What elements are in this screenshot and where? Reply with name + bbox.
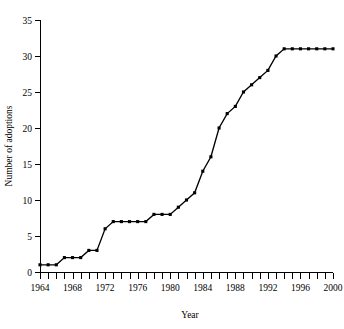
y-tick-label: 0 bbox=[27, 268, 32, 278]
adoptions-line-chart: 05101520253035 1964196819721976198019841… bbox=[0, 0, 344, 329]
data-point-marker bbox=[250, 83, 253, 86]
x-tick-label: 1992 bbox=[258, 283, 277, 293]
x-tick-label: 1968 bbox=[63, 283, 82, 293]
data-point-marker bbox=[209, 155, 212, 158]
data-point-marker bbox=[71, 256, 74, 259]
x-tick-label: 1976 bbox=[128, 283, 147, 293]
data-point-marker bbox=[128, 220, 131, 223]
data-point-marker bbox=[193, 191, 196, 194]
x-tick-label: 1980 bbox=[161, 283, 180, 293]
x-tick-label: 1964 bbox=[31, 283, 50, 293]
data-point-marker bbox=[136, 220, 139, 223]
y-tick-label: 20 bbox=[23, 124, 33, 134]
x-tick-label: 2000 bbox=[324, 283, 343, 293]
data-point-marker bbox=[299, 47, 302, 50]
x-axis-title: Year bbox=[181, 310, 199, 320]
y-tick-label: 10 bbox=[23, 196, 33, 206]
data-point-marker bbox=[266, 69, 269, 72]
x-axis-tick-labels: 1964196819721976198019841988199219962000 bbox=[31, 283, 343, 293]
y-axis-title: Number of adoptions bbox=[4, 105, 14, 186]
y-axis-tick-labels: 05101520253035 bbox=[23, 16, 33, 278]
data-point-marker bbox=[201, 170, 204, 173]
data-point-marker bbox=[95, 249, 98, 252]
y-tick-label: 30 bbox=[23, 52, 33, 62]
series-markers bbox=[38, 47, 334, 266]
data-point-marker bbox=[218, 126, 221, 129]
x-tick-label: 1988 bbox=[226, 283, 245, 293]
data-point-marker bbox=[177, 206, 180, 209]
x-tick-label: 1984 bbox=[193, 283, 212, 293]
y-tick-label: 25 bbox=[23, 88, 33, 98]
data-point-marker bbox=[291, 47, 294, 50]
y-axis-ticks bbox=[35, 21, 41, 273]
data-point-marker bbox=[38, 263, 41, 266]
chart-page: 05101520253035 1964196819721976198019841… bbox=[0, 0, 344, 329]
data-point-marker bbox=[120, 220, 123, 223]
data-point-marker bbox=[47, 263, 50, 266]
data-point-marker bbox=[169, 213, 172, 216]
data-point-marker bbox=[55, 263, 58, 266]
data-point-marker bbox=[242, 90, 245, 93]
data-point-marker bbox=[79, 256, 82, 259]
y-tick-label: 5 bbox=[27, 232, 32, 242]
data-point-marker bbox=[323, 47, 326, 50]
data-point-marker bbox=[104, 227, 107, 230]
data-point-marker bbox=[87, 249, 90, 252]
data-point-marker bbox=[331, 47, 334, 50]
data-point-marker bbox=[315, 47, 318, 50]
x-axis-ticks bbox=[41, 273, 334, 279]
x-tick-label: 1972 bbox=[96, 283, 115, 293]
data-point-marker bbox=[226, 112, 229, 115]
x-tick-label: 1996 bbox=[291, 283, 310, 293]
data-point-marker bbox=[112, 220, 115, 223]
data-point-marker bbox=[63, 256, 66, 259]
y-tick-label: 15 bbox=[23, 160, 33, 170]
data-point-marker bbox=[307, 47, 310, 50]
data-point-marker bbox=[161, 213, 164, 216]
y-tick-label: 35 bbox=[23, 16, 33, 26]
data-point-marker bbox=[274, 54, 277, 57]
series-line-number-of-adoptions bbox=[40, 49, 333, 265]
data-point-marker bbox=[258, 76, 261, 79]
data-point-marker bbox=[234, 105, 237, 108]
data-point-marker bbox=[283, 47, 286, 50]
data-point-marker bbox=[144, 220, 147, 223]
data-point-marker bbox=[185, 198, 188, 201]
data-point-marker bbox=[152, 213, 155, 216]
